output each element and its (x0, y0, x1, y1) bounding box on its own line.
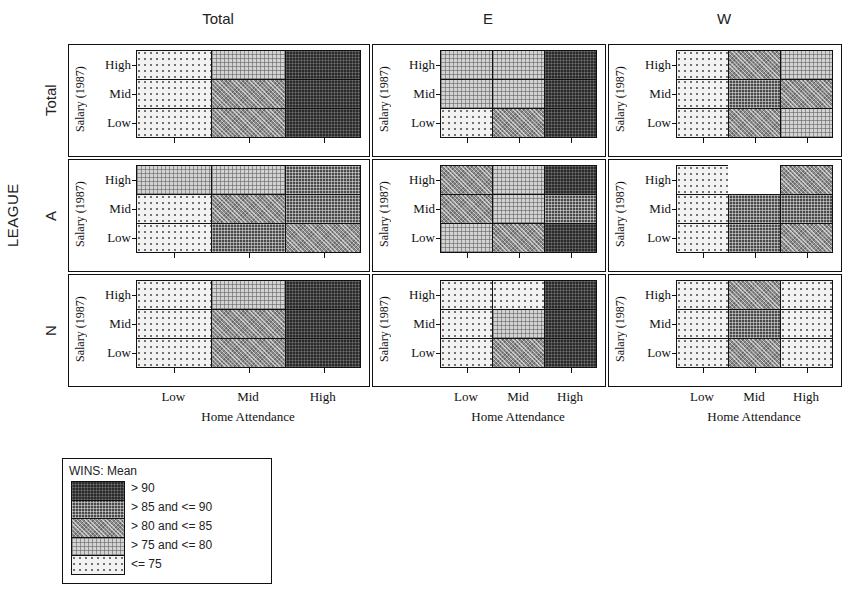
legend-swatch-2 (72, 519, 124, 538)
mosaic-cell (136, 223, 212, 253)
mosaic-cell (544, 280, 597, 310)
mosaic-cell (492, 50, 545, 80)
legend-label-4: <= 75 (131, 557, 162, 571)
y-tick-low: Low (83, 115, 131, 131)
mosaic-cell (440, 194, 493, 224)
y-tick-mid: Mid (83, 316, 131, 332)
x-tick-high: High (776, 389, 836, 405)
y-tick-low: Low (387, 230, 435, 246)
y-tick-high: High (387, 172, 435, 188)
x-tick-mark (174, 138, 175, 143)
mosaic-grid (137, 166, 361, 253)
mosaic-grid (441, 281, 597, 368)
mosaic-grid (441, 166, 597, 253)
mosaic-cell (285, 194, 361, 224)
x-tick-mark (807, 138, 808, 143)
x-axis-title: Home Attendance (430, 409, 606, 425)
x-tick-mid: Mid (724, 389, 784, 405)
y-tick-mid: Mid (623, 86, 671, 102)
mosaic-cell (676, 194, 729, 224)
mosaic-cell (211, 50, 287, 80)
mosaic-cell (285, 280, 361, 310)
x-tick-mark (249, 368, 250, 373)
mosaic-cell (285, 338, 361, 368)
mosaic-grid (137, 51, 361, 138)
x-tick-mark (571, 253, 572, 258)
mosaic-cell (211, 108, 287, 138)
mosaic-cell (544, 50, 597, 80)
mosaic-cell (440, 79, 493, 109)
mosaic-cell (728, 50, 781, 80)
x-tick-mark (174, 368, 175, 373)
y-tick-mid: Mid (387, 86, 435, 102)
x-tick-mark (324, 368, 325, 373)
mosaic-cell (676, 223, 729, 253)
panel-n-e: Salary (1987)HighMidLow (372, 274, 606, 387)
mosaic-cell (492, 79, 545, 109)
mosaic-cell (440, 309, 493, 339)
mosaic-cell (492, 194, 545, 224)
mosaic-cell (544, 79, 597, 109)
mosaic-cell (676, 50, 729, 80)
x-tick-high: High (540, 389, 600, 405)
x-tick-low: Low (672, 389, 732, 405)
y-tick-mid: Mid (83, 201, 131, 217)
panel-a-e: Salary (1987)HighMidLow (372, 159, 606, 272)
x-tick-mark (519, 138, 520, 143)
legend-swatch-0 (72, 482, 124, 501)
legend-label-2: > 80 and <= 85 (131, 519, 212, 533)
y-tick-high: High (83, 57, 131, 73)
y-tick-low: Low (387, 115, 435, 131)
panel-a-w: Salary (1987)HighMidLow (608, 159, 842, 272)
x-tick-mark (467, 368, 468, 373)
mosaic-cell (544, 108, 597, 138)
mosaic-cell (728, 223, 781, 253)
x-tick-mark (755, 253, 756, 258)
mosaic-cell (676, 165, 729, 195)
mosaic-cell (211, 79, 287, 109)
mosaic-cell (492, 223, 545, 253)
mosaic-cell (136, 165, 212, 195)
x-tick-mark (571, 138, 572, 143)
mosaic-cell (136, 338, 212, 368)
mosaic-cell (780, 50, 833, 80)
mosaic-cell (676, 280, 729, 310)
mosaic-cell (285, 165, 361, 195)
x-tick-mid: Mid (488, 389, 548, 405)
y-tick-mid: Mid (623, 201, 671, 217)
mosaic-cell (211, 223, 287, 253)
mosaic-cell (544, 194, 597, 224)
panel-total-e: Salary (1987)HighMidLow (372, 44, 606, 157)
mosaic-cell (780, 79, 833, 109)
y-tick-mid: Mid (623, 316, 671, 332)
x-tick-mark (467, 138, 468, 143)
y-tick-mid: Mid (83, 86, 131, 102)
row-strip-total: Total (42, 48, 60, 153)
legend-label-1: > 85 and <= 90 (131, 500, 212, 514)
mosaic-cell (780, 194, 833, 224)
mosaic-cell (211, 309, 287, 339)
y-tick-high: High (387, 287, 435, 303)
x-tick-mark (703, 253, 704, 258)
y-tick-high: High (623, 172, 671, 188)
mosaic-cell (676, 309, 729, 339)
y-tick-high: High (623, 287, 671, 303)
mosaic-cell (676, 108, 729, 138)
mosaic-cell (544, 223, 597, 253)
column-strip-total: Total (68, 10, 368, 27)
y-tick-mid: Mid (387, 201, 435, 217)
mosaic-cell (136, 50, 212, 80)
column-strip-w: W (608, 10, 840, 27)
x-tick-mark (467, 253, 468, 258)
x-tick-mark (324, 253, 325, 258)
legend-label-3: > 75 and <= 80 (131, 538, 212, 552)
x-tick-mark (571, 368, 572, 373)
y-tick-low: Low (623, 230, 671, 246)
mosaic-cell (728, 280, 781, 310)
mosaic-cell (728, 338, 781, 368)
mosaic-cell (728, 309, 781, 339)
mosaic-cell (728, 165, 781, 195)
mosaic-cell (492, 108, 545, 138)
x-tick-mark (324, 138, 325, 143)
mosaic-cell (780, 309, 833, 339)
